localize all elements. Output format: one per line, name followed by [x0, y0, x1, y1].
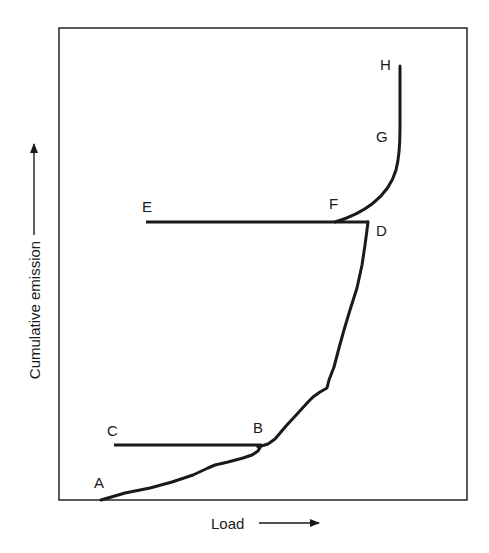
label-h: H: [380, 56, 391, 73]
loading-curve-a-b-d: [101, 222, 368, 500]
label-a: A: [94, 474, 104, 491]
label-g: G: [376, 128, 388, 145]
diagram-canvas: A B C D E F G H Cumulative emission Load: [0, 0, 489, 553]
label-f: F: [329, 195, 338, 212]
label-b: B: [253, 419, 263, 436]
label-e: E: [142, 198, 152, 215]
label-c: C: [107, 422, 118, 439]
reload-curve-f-g-h: [335, 66, 400, 222]
y-axis-label: Cumulative emission: [26, 241, 43, 379]
label-d: D: [376, 222, 387, 239]
x-axis-label: Load: [211, 515, 244, 532]
